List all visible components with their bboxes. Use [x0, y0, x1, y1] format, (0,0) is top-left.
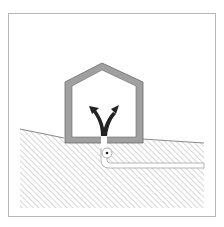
- connection-point: [102, 148, 112, 158]
- house-utility-diagram: [0, 0, 224, 227]
- floor-penetration: [101, 136, 107, 144]
